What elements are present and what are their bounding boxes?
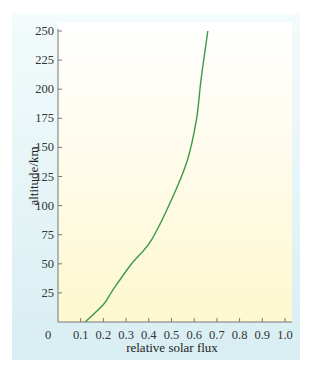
solar-flux-curve [85,31,208,322]
y-tick-label: 75 [42,228,55,242]
y-tick-label: 200 [35,82,54,96]
x-tick-label: 0.1 [73,328,89,342]
line-chart: 00.10.20.30.40.50.60.70.80.91.0255075100… [0,0,313,375]
x-tick-label: 0 [45,328,51,342]
y-tick-label: 175 [35,111,54,125]
y-axis-title: altitude/km [26,146,41,205]
y-tick-label: 250 [35,24,54,38]
x-tick-label: 0.9 [254,328,270,342]
y-tick-label: 50 [42,257,55,271]
y-tick-label: 225 [35,53,54,67]
axes [58,29,292,322]
ticks: 00.10.20.30.40.50.60.70.80.91.0255075100… [35,24,293,342]
x-axis-title: relative solar flux [126,340,218,355]
x-tick-label: 0.8 [232,328,248,342]
y-tick-label: 25 [42,286,55,300]
x-tick-label: 0.2 [96,328,112,342]
x-tick-label: 1.0 [277,328,293,342]
